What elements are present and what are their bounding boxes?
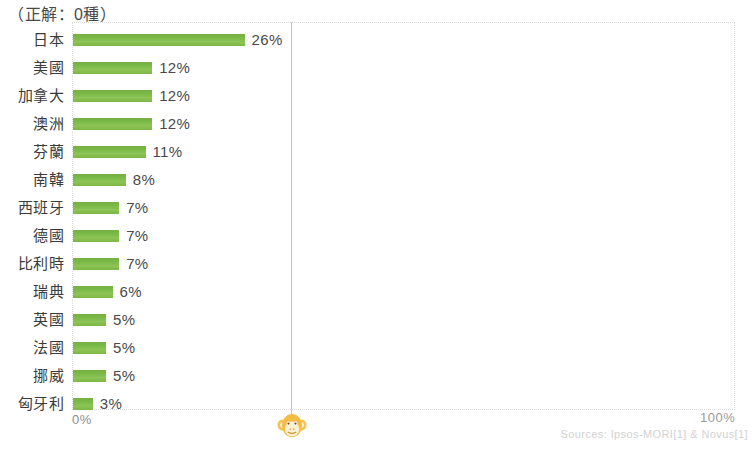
bar-value-label: 12% [159, 110, 190, 138]
category-label: 南韓 [0, 166, 64, 194]
bar [73, 90, 152, 102]
bar-value-label: 11% [153, 138, 183, 166]
source-note: Sources: Ipsos-MORI[1] & Novus[1] [561, 428, 748, 440]
category-label: 加拿大 [0, 82, 64, 110]
bar-row: 南韓8% [0, 166, 754, 194]
bar-track: 26% [73, 26, 733, 54]
bar-track: 12% [73, 54, 733, 82]
bar-row: 澳洲12% [0, 110, 754, 138]
bar-track: 6% [73, 278, 733, 306]
bar [73, 146, 146, 158]
monkey-face-icon [276, 412, 308, 440]
bar-value-label: 5% [113, 362, 135, 390]
category-label: 澳洲 [0, 110, 64, 138]
bar-value-label: 3% [100, 390, 122, 418]
bar-value-label: 7% [126, 222, 148, 250]
bar-value-label: 5% [113, 334, 135, 362]
category-label: 德國 [0, 222, 64, 250]
category-label: 法國 [0, 334, 64, 362]
bar-track: 7% [73, 222, 733, 250]
bar-track: 5% [73, 334, 733, 362]
bar-track: 7% [73, 194, 733, 222]
bar-row: 比利時7% [0, 250, 754, 278]
bar [73, 230, 119, 242]
bar-row: 美國12% [0, 54, 754, 82]
category-label: 美國 [0, 54, 64, 82]
bar-track: 12% [73, 110, 733, 138]
category-label: 芬蘭 [0, 138, 64, 166]
bar [73, 258, 119, 270]
bar-track: 8% [73, 166, 733, 194]
category-label: 挪威 [0, 362, 64, 390]
bar [73, 314, 106, 326]
bar [73, 370, 106, 382]
bar-rows: 日本26%美國12%加拿大12%澳洲12%芬蘭11%南韓8%西班牙7%德國7%比… [0, 26, 754, 410]
bar [73, 62, 152, 74]
bar-value-label: 7% [126, 194, 148, 222]
bar-track: 3% [73, 390, 733, 418]
category-label: 西班牙 [0, 194, 64, 222]
bar-track: 7% [73, 250, 733, 278]
bar-value-label: 8% [133, 166, 155, 194]
bar-row: 匈牙利3% [0, 390, 754, 418]
category-label: 英國 [0, 306, 64, 334]
category-label: 瑞典 [0, 278, 64, 306]
bar-track: 11% [73, 138, 733, 166]
bar-track: 12% [73, 82, 733, 110]
bar-row: 德國7% [0, 222, 754, 250]
bar-track: 5% [73, 306, 733, 334]
bar [73, 34, 245, 46]
bar [73, 202, 119, 214]
bar [73, 174, 126, 186]
bar [73, 342, 106, 354]
bar-value-label: 26% [252, 26, 283, 54]
bar-value-label: 6% [120, 278, 142, 306]
bar-value-label: 7% [126, 250, 148, 278]
bar-row: 法國5% [0, 334, 754, 362]
bar [73, 286, 113, 298]
category-label: 匈牙利 [0, 390, 64, 418]
bar-row: 日本26% [0, 26, 754, 54]
axis-min-label: 0% [72, 412, 92, 427]
axis-max-label: 100% [700, 410, 735, 425]
bar [73, 118, 152, 130]
bar-row: 英國5% [0, 306, 754, 334]
bar-row: 挪威5% [0, 362, 754, 390]
bar-value-label: 12% [159, 54, 190, 82]
bar-row: 加拿大12% [0, 82, 754, 110]
bar-value-label: 5% [113, 306, 135, 334]
bar-value-label: 12% [159, 82, 190, 110]
category-label: 日本 [0, 26, 64, 54]
chart-page: （正解：0種） 日本26%美國12%加拿大12%澳洲12%芬蘭11%南韓8%西班… [0, 0, 754, 451]
vertical-guideline [291, 22, 292, 415]
bar-track: 5% [73, 362, 733, 390]
category-label: 比利時 [0, 250, 64, 278]
bar-row: 西班牙7% [0, 194, 754, 222]
bar-row: 芬蘭11% [0, 138, 754, 166]
bar [73, 398, 93, 410]
bar-row: 瑞典6% [0, 278, 754, 306]
